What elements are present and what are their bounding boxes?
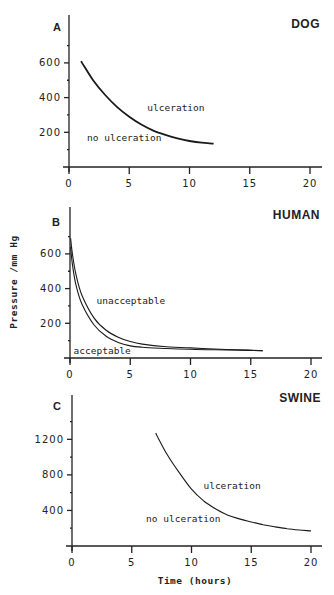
x-tick-label: 20: [304, 557, 319, 568]
x-tick-label: 15: [243, 369, 258, 380]
x-tick-label: 5: [126, 178, 133, 189]
x-tick-label: 0: [66, 369, 73, 380]
y-tick-label: 600: [40, 248, 62, 259]
panel-letter: B: [52, 216, 60, 228]
y-tick-label: 200: [39, 127, 61, 138]
region-label: ulceration: [147, 102, 204, 113]
region-label: unacceptable: [97, 295, 166, 306]
x-axis-title: Time (hours): [158, 575, 233, 586]
region-label: ulceration: [203, 480, 260, 491]
region-label: no ulceration: [146, 513, 220, 524]
x-tick-label: 0: [68, 557, 75, 568]
x-tick-label: 5: [127, 369, 134, 380]
y-tick-label: 1200: [35, 434, 64, 445]
x-tick-label: 0: [65, 178, 72, 189]
species-title: HUMAN: [273, 208, 320, 222]
panel-b-human: 05101520200400600unacceptableacceptableB…: [40, 207, 322, 380]
region-label: no ulceration: [87, 132, 161, 143]
x-tick-label: 10: [183, 369, 198, 380]
y-tick-label: 400: [40, 283, 62, 294]
figure: 05101520200400600ulcerationno ulceration…: [0, 0, 334, 595]
species-title: DOG: [291, 17, 320, 31]
panel-letter: C: [53, 400, 61, 412]
x-tick-label: 10: [184, 557, 199, 568]
panel-letter: A: [53, 21, 61, 33]
x-tick-label: 10: [182, 178, 197, 189]
x-tick-label: 15: [244, 557, 259, 568]
species-title: SWINE: [279, 391, 321, 405]
y-axis-title: Pressure /mm Hg: [8, 235, 19, 328]
y-tick-label: 400: [39, 92, 61, 103]
y-tick-label: 400: [42, 505, 64, 516]
panel-c-swine: 051015204008001200ulcerationno ulceratio…: [35, 391, 322, 568]
x-tick-label: 20: [304, 369, 319, 380]
y-tick-label: 800: [42, 469, 64, 480]
x-tick-label: 15: [242, 178, 257, 189]
x-tick-label: 20: [303, 178, 318, 189]
y-tick-label: 200: [40, 318, 62, 329]
panel-a-dog: 05101520200400600ulcerationno ulceration…: [39, 15, 322, 189]
y-tick-label: 600: [39, 57, 61, 68]
x-tick-label: 5: [128, 557, 135, 568]
region-label: acceptable: [74, 345, 131, 356]
